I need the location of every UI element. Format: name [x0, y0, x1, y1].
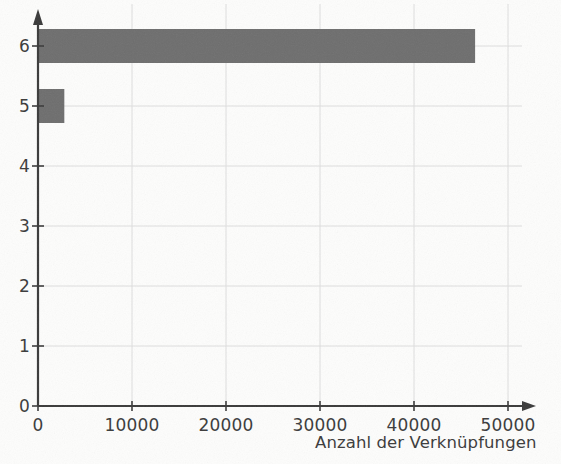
y-tick-label: 6	[12, 36, 30, 56]
chart-figure: 010000200003000040000500000123456 Anzahl…	[0, 0, 561, 464]
x-tick-label: 10000	[104, 415, 159, 435]
y-tick-label: 3	[12, 216, 30, 236]
x-tick-label: 20000	[198, 415, 253, 435]
y-tick-label: 5	[12, 96, 30, 116]
chart-axes	[0, 0, 561, 464]
arrow-up-icon	[33, 9, 43, 25]
x-tick-label: 30000	[292, 415, 347, 435]
bar-chart-plot-area: 010000200003000040000500000123456 Anzahl…	[0, 0, 561, 464]
x-tick-label: 50000	[480, 415, 535, 435]
y-tick-label: 1	[12, 336, 30, 356]
x-axis-title: Anzahl der Verknüpfungen	[315, 433, 537, 452]
y-tick-label: 0	[12, 396, 30, 416]
y-tick-label: 4	[12, 156, 30, 176]
x-tick-label: 40000	[386, 415, 441, 435]
arrow-right-icon	[522, 401, 536, 411]
y-tick-label: 2	[12, 276, 30, 296]
x-tick-label: 0	[32, 415, 43, 435]
